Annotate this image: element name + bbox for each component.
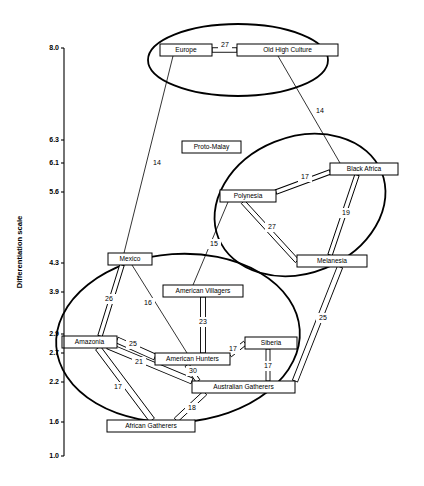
node-polynesia[interactable]: Polynesia — [220, 190, 276, 202]
node-label: American Villagers — [176, 287, 232, 295]
thick-link-label: 23 — [199, 318, 207, 325]
thin-link-europe-mexico — [124, 56, 173, 253]
node-label: Siberia — [261, 339, 282, 346]
thin-link-mexico-american_hunters — [132, 265, 187, 353]
node-melanesia[interactable]: Melanesia — [297, 255, 367, 267]
cluster-africa-oceania — [193, 109, 407, 301]
thick-link-label: 25 — [129, 340, 137, 347]
node-label: Mexico — [120, 255, 141, 262]
node-label: Melanesia — [317, 257, 347, 264]
thick-link-label: 26 — [105, 295, 113, 302]
node-europe[interactable]: Europe — [160, 44, 212, 56]
node-label: Polynesia — [234, 192, 263, 200]
axis-tick-label: 8.0 — [49, 44, 59, 51]
node-american_villagers[interactable]: American Villagers — [163, 285, 243, 297]
axis-title: Differentiation scale — [15, 216, 24, 289]
figure-root: 14141516 2717192725262521172317173018 Eu… — [0, 0, 424, 486]
thick-link-label: 18 — [188, 404, 196, 411]
thick-link-label: 21 — [135, 358, 143, 365]
network-diagram-canvas: 14141516 2717192725262521172317173018 Eu… — [0, 0, 424, 486]
node-african_gatherers[interactable]: African Gatherers — [107, 420, 195, 432]
thick-link-label: 25 — [319, 314, 327, 321]
node-mexico[interactable]: Mexico — [108, 253, 152, 265]
axis-tick-label: 3.9 — [49, 288, 59, 295]
node-label: Europe — [175, 46, 197, 54]
axis-tick-label: 5.6 — [49, 188, 59, 195]
thick-link-label: 27 — [221, 41, 229, 48]
node-old_high_culture[interactable]: Old High Culture — [237, 44, 338, 56]
thick-link-label: 19 — [342, 209, 350, 216]
axis-tick-label: 1.6 — [49, 418, 59, 425]
y-axis: 8.06.36.15.64.33.92.92.72.21.61.0Differe… — [15, 44, 64, 459]
node-label: Old High Culture — [263, 46, 312, 54]
node-amazonia[interactable]: Amazonia — [62, 336, 117, 348]
thick-link-label: 30 — [189, 367, 197, 374]
node-australian_gatherers[interactable]: Australian Gatherers — [192, 381, 295, 393]
node-label: Black Africa — [347, 165, 382, 172]
cluster-old-world — [148, 24, 328, 96]
axis-tick-label: 6.1 — [49, 159, 59, 166]
axis-tick-label: 4.3 — [49, 259, 59, 266]
thin-link-label: 14 — [153, 159, 161, 166]
node-label: African Gatherers — [125, 422, 177, 429]
thin-link-old_high_culture-black_africa — [278, 56, 340, 163]
thin-link-label: 14 — [316, 107, 324, 114]
node-black_africa[interactable]: Black Africa — [330, 163, 398, 175]
thin-links: 14141516 — [124, 56, 340, 353]
cluster-ellipses — [50, 24, 407, 430]
node-siberia[interactable]: Siberia — [245, 337, 297, 349]
node-label: Proto-Malay — [194, 143, 230, 151]
thick-link-label: 17 — [114, 383, 122, 390]
thin-link-label: 15 — [210, 240, 218, 247]
axis-tick-label: 6.3 — [49, 136, 59, 143]
thin-link-label: 16 — [144, 299, 152, 306]
node-label: Amazonia — [75, 338, 105, 345]
node-boxes: EuropeOld High CultureProto-MalayBlack A… — [62, 44, 398, 432]
thick-link-label: 27 — [268, 223, 276, 230]
axis-tick-label: 2.9 — [49, 330, 59, 337]
node-label: Australian Gatherers — [213, 383, 274, 390]
axis-tick-label: 2.7 — [49, 349, 59, 356]
thick-link-label: 17 — [301, 173, 309, 180]
node-proto_malay[interactable]: Proto-Malay — [182, 141, 241, 153]
axis-tick-label: 2.2 — [49, 378, 59, 385]
axis-tick-label: 1.0 — [49, 452, 59, 459]
node-label: American Hunters — [166, 355, 219, 362]
thick-link-label: 17 — [229, 345, 237, 352]
node-american_hunters[interactable]: American Hunters — [155, 353, 230, 365]
thick-link-label: 17 — [264, 362, 272, 369]
